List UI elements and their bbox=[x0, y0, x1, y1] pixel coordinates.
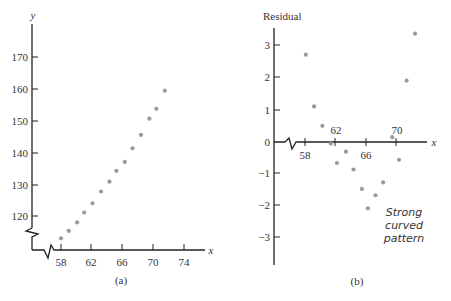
y-tick-label: 170 bbox=[12, 51, 29, 63]
x-tick-label: 70 bbox=[148, 256, 160, 268]
figure: 170 160 150 140 130 120 58 62 66 70 74 y… bbox=[0, 0, 451, 301]
data-point bbox=[114, 169, 118, 173]
data-point bbox=[405, 79, 409, 83]
data-point bbox=[351, 167, 355, 171]
x-tick-label: 58 bbox=[300, 149, 312, 161]
data-point bbox=[147, 117, 151, 121]
y-tick-label: −3 bbox=[258, 231, 270, 243]
x-tick-label: 58 bbox=[56, 256, 68, 268]
data-point bbox=[82, 210, 86, 214]
data-point bbox=[381, 180, 385, 184]
data-points-a bbox=[59, 89, 167, 241]
data-point bbox=[373, 193, 377, 197]
panel-a: 170 160 150 140 130 120 58 62 66 70 74 y… bbox=[12, 9, 214, 287]
data-point bbox=[130, 146, 134, 150]
data-point bbox=[75, 220, 79, 224]
y-tick-label: 2 bbox=[265, 71, 271, 83]
x-tick-label: 70 bbox=[392, 124, 404, 136]
y-tick-label: −2 bbox=[258, 199, 270, 211]
y-tick-label: 140 bbox=[12, 147, 29, 159]
x-tick-label: 62 bbox=[86, 256, 97, 268]
data-point bbox=[139, 133, 143, 137]
data-point bbox=[67, 229, 71, 233]
x-ticks-a bbox=[61, 244, 184, 250]
annotation-line: Strong bbox=[386, 206, 423, 219]
data-point bbox=[304, 53, 308, 57]
annotation-line: pattern bbox=[383, 232, 425, 245]
x-tick-label: 74 bbox=[179, 256, 191, 268]
panel-b: 3 2 1 0 −1 −2 −3 58 62 66 70 Residual x … bbox=[258, 10, 436, 288]
y-tick-label: 0 bbox=[265, 136, 271, 148]
data-point bbox=[390, 135, 394, 139]
data-point bbox=[344, 150, 348, 154]
data-point bbox=[329, 142, 333, 146]
data-point bbox=[154, 107, 158, 111]
x-tick-label: 62 bbox=[331, 124, 342, 136]
data-point bbox=[123, 160, 127, 164]
x-tick-label: 66 bbox=[117, 256, 129, 268]
y-ticks-b bbox=[274, 45, 280, 237]
data-point bbox=[413, 32, 417, 36]
x-axis-label-b: x bbox=[431, 136, 437, 148]
caption-a: (a) bbox=[115, 274, 128, 287]
data-point bbox=[335, 161, 339, 165]
y-tick-label: 120 bbox=[12, 210, 29, 222]
y-tick-label: 1 bbox=[265, 104, 271, 116]
data-point bbox=[312, 104, 316, 108]
data-points-b bbox=[304, 32, 417, 211]
x-tick-labels-a: 58 62 66 70 74 bbox=[56, 256, 191, 268]
x-axis-b bbox=[274, 138, 427, 149]
y-axis-break-a bbox=[26, 228, 38, 250]
data-point bbox=[366, 206, 370, 210]
y-axis-label-a: y bbox=[30, 9, 36, 21]
y-tick-labels-a: 170 160 150 140 130 120 bbox=[12, 51, 29, 222]
y-tick-label: 150 bbox=[12, 115, 29, 127]
annotation-line: curved bbox=[385, 219, 424, 232]
caption-b: (b) bbox=[351, 275, 364, 288]
data-point bbox=[59, 236, 63, 240]
data-point bbox=[99, 189, 103, 193]
data-point bbox=[320, 124, 324, 128]
y-tick-label: −1 bbox=[258, 167, 270, 179]
y-ticks-a bbox=[32, 57, 38, 216]
data-point bbox=[90, 201, 94, 205]
y-tick-label: 160 bbox=[12, 83, 29, 95]
y-axis-label-b: Residual bbox=[263, 10, 302, 22]
y-tick-label: 130 bbox=[12, 179, 29, 191]
data-point bbox=[397, 158, 401, 162]
y-tick-labels-b: 3 2 1 0 −1 −2 −3 bbox=[258, 39, 270, 243]
y-tick-label: 3 bbox=[265, 39, 271, 51]
x-axis-label-a: x bbox=[208, 244, 214, 256]
x-tick-label: 66 bbox=[361, 149, 373, 161]
data-point bbox=[107, 180, 111, 184]
data-point bbox=[163, 89, 167, 93]
annotation-strong-curved-pattern: Strong curved pattern bbox=[383, 206, 425, 245]
data-point bbox=[360, 187, 364, 191]
